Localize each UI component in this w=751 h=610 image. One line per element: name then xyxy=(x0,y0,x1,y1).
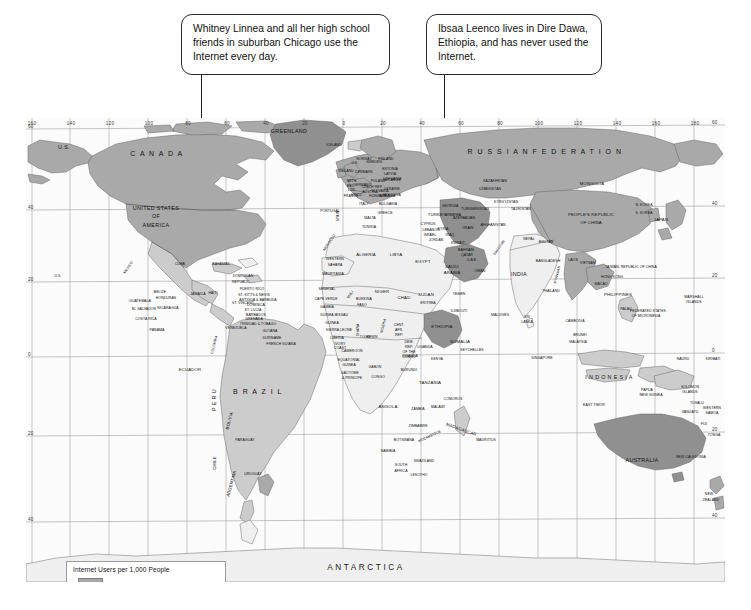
map-label-somalia: SOMALIA xyxy=(450,340,470,345)
map-label-japan: JAPAN xyxy=(654,218,668,223)
map-label-honduras: HONDURAS xyxy=(156,297,176,301)
map-label-iran: IRAN xyxy=(463,226,474,231)
map-label-norway: NORWAY xyxy=(356,158,372,162)
map-label-east-timor: EAST TIMOR xyxy=(583,404,605,408)
map-label-iraq: IRAQ xyxy=(446,234,455,238)
map-label-bulgaria: BULGARIA xyxy=(379,203,397,207)
longitude-label-100-3: 100 xyxy=(145,121,153,126)
map-label-lithuania: LITHUANIA xyxy=(383,178,402,182)
map-label-laos: LAOS xyxy=(568,259,578,263)
map-label-mongolia: MONGOLIA xyxy=(580,182,604,187)
map-label-i-n-d-o-n-e-s-i-a: I N D O N E S I A xyxy=(585,375,632,381)
map-label-b-r-a-z-i-l: B R A Z I L xyxy=(233,388,283,395)
callout-chicago-text: Whitney Linnea and all her high school f… xyxy=(193,22,379,65)
map-label-chile: CHILE xyxy=(213,456,218,469)
map-label-p-e-r-u: P E R U xyxy=(212,389,218,411)
map-label-gambia: GAMBIA xyxy=(320,306,334,310)
legend-item-0: High: 100 or more xyxy=(73,576,220,583)
map-label-new: NEW xyxy=(705,493,713,497)
map-label-u-k: U.K. xyxy=(351,162,358,166)
map-label-uganda: UGANDA xyxy=(417,346,432,350)
map-label-hungary: HUNGARY xyxy=(369,195,387,199)
map-label-of: OF xyxy=(152,214,160,220)
map-label-congo: CONGO xyxy=(402,356,415,360)
map-label-puerto-rico: PUERTO RICO xyxy=(240,288,265,292)
map-label-algeria: ALGERIA xyxy=(356,253,376,258)
map-label-suriname: SURINAME xyxy=(263,337,282,341)
map-label-zambia: ZAMBIA xyxy=(411,408,424,412)
map-label-belize: BELIZE xyxy=(154,291,166,295)
map-label-nicaragua: NICARAGUA xyxy=(157,307,178,311)
map-label-tonga: TONGA xyxy=(708,434,721,438)
map-label-sudan: SUDAN xyxy=(418,293,434,298)
map-label-s-korea: S. KOREA xyxy=(636,212,653,216)
map-label-islands: ISLANDS xyxy=(682,391,697,395)
map-label-iceland: ICELAND xyxy=(326,144,342,148)
map-label-bangladesh: BANGLADESH xyxy=(536,260,560,264)
longitude-label-80-12: 80 xyxy=(497,121,503,126)
map-label-paraguay: PARAGUAY xyxy=(235,439,254,443)
map-label-bhutan: BHUTAN xyxy=(539,241,553,245)
map-label-uruguay: URUGUAY xyxy=(244,473,262,477)
map-label-tunisia: TUNISIA xyxy=(362,226,376,230)
map-label-vanuatu: VANUATU xyxy=(682,411,699,415)
longitude-label-100-13: 100 xyxy=(535,121,543,126)
map-label-malawi: MALAWI xyxy=(431,406,445,410)
map-label-burkina: BURKINA xyxy=(356,298,372,302)
map-label-zimbabwe: ZIMBABWE xyxy=(408,425,427,429)
map-label-hong-kong: HONG KONG xyxy=(601,276,623,280)
map-label-of-micronesia: OF MICRONESIA xyxy=(632,315,661,319)
longitude-label-60-11: 60 xyxy=(458,121,464,126)
map-label-st-vincent: ST. VINCENT xyxy=(232,302,254,306)
map-label-africa: AFRICA xyxy=(394,470,407,474)
longitude-label-20-7: 20 xyxy=(302,121,308,126)
map-label-turkey: TURKEY xyxy=(428,213,446,218)
map-label-congo: CONGO xyxy=(371,376,384,380)
map-label-new-guinea: NEW GUINEA xyxy=(639,394,662,398)
map-label-c-a-n-a-d-a: C A N A D A xyxy=(130,150,183,157)
latitude-label-left-0-3: 0 xyxy=(28,352,31,357)
map-label-malaysia: MALAYSIA xyxy=(569,341,587,345)
header-rule xyxy=(0,88,751,93)
map-label-faso: FASO xyxy=(357,304,367,308)
world-map: .high{fill:#a9a9a9} .mod{fill:#cccccc} .… xyxy=(26,118,725,582)
map-label-taiwan-republic-of-china: TAIWAN, REPUBLIC OF CHINA xyxy=(605,266,657,270)
map-label-republic: REPUBLIC xyxy=(232,281,250,285)
map-label-costa-rica: COSTA RICA xyxy=(135,318,156,322)
map-label-turkmenistan: TURKMENISTAN xyxy=(461,208,489,212)
map-label-italy: ITALY xyxy=(359,203,368,207)
map-label-french-guiana: FRENCH GUIANA xyxy=(266,343,296,347)
map-legend: Internet Users per 1,000 People High: 10… xyxy=(66,561,226,582)
longitude-label-140-1: 140 xyxy=(67,121,75,126)
latitude-label-left-40-1: 40 xyxy=(28,205,34,210)
longitude-label-160-16: 160 xyxy=(652,121,660,126)
map-label-brunei: BRUNEI xyxy=(573,334,587,338)
map-label-seychelles: SEYCHELLES xyxy=(460,349,483,353)
latitude-label-left-40-5: 40 xyxy=(28,517,34,522)
map-label-libya: LIBYA xyxy=(390,253,403,258)
map-label-united-states: UNITED STATES xyxy=(133,206,179,212)
map-label-mauritania: MAURITANIA xyxy=(322,273,344,277)
map-label-new-caledonia: NEW CALEDONIA xyxy=(676,456,706,460)
map-label-macao: MACAO xyxy=(594,283,607,287)
map-label-comoros: COMOROS xyxy=(444,398,463,402)
map-label-cameroon: CAMEROON xyxy=(341,350,362,354)
longitude-label-20-9: 20 xyxy=(380,121,386,126)
map-label-mauritius: MAURITIUS xyxy=(476,439,496,443)
latitude-label-left-20-4: 20 xyxy=(28,431,34,436)
map-label-chad: CHAD xyxy=(398,296,411,301)
map-label-liberia: LIBERIA xyxy=(330,337,344,341)
map-label-djibouti: DJIBOUTI xyxy=(451,310,467,314)
map-label-armenia: ARMENIA xyxy=(445,214,461,218)
map-label-islands: ISLANDS xyxy=(686,301,701,305)
map-label-n-korea: N. KOREA xyxy=(635,204,652,208)
longitude-label-80-4: 80 xyxy=(185,121,191,126)
map-label-burundi: BURUNDI xyxy=(401,369,417,373)
longitude-label-60-5: 60 xyxy=(224,121,230,126)
longitude-label-140-15: 140 xyxy=(613,121,621,126)
map-label-greenland: GREENLAND xyxy=(271,129,308,135)
map-label-india: INDIA xyxy=(511,272,527,278)
callout-ethiopia-text: Ibsaa Leenco lives in Dire Dawa, Ethiopi… xyxy=(438,22,591,65)
map-label-guinea-bissau: GUINEA-BISSAU xyxy=(320,314,348,318)
map-label-rep: REP. xyxy=(395,334,403,338)
